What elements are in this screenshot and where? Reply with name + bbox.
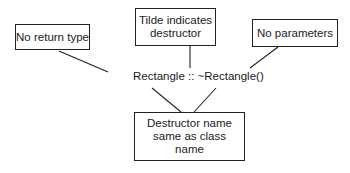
annotation-text: No return type bbox=[16, 31, 89, 44]
diagram-canvas: No return type Tilde indicates destructo… bbox=[0, 0, 350, 173]
destructor-signature: Rectangle :: ~Rectangle() bbox=[133, 70, 264, 83]
connector-no-parameters bbox=[250, 47, 278, 68]
annotation-same-name: Destructor name same as class name bbox=[134, 112, 245, 161]
annotation-tilde-destructor: Tilde indicates destructor bbox=[135, 8, 216, 46]
annotation-text: No parameters bbox=[257, 27, 333, 40]
annotation-no-parameters: No parameters bbox=[252, 19, 338, 47]
connector-no-return-type bbox=[59, 51, 108, 72]
connector-same-name-right bbox=[194, 88, 216, 112]
annotation-no-return-type: No return type bbox=[15, 24, 90, 50]
connector-same-name-left bbox=[152, 88, 181, 112]
annotation-text: Destructor name same as class name bbox=[147, 117, 232, 156]
annotation-text: Tilde indicates destructor bbox=[139, 14, 212, 40]
